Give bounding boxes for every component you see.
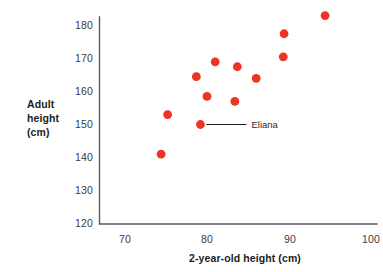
x-tick-label-70: 70 xyxy=(119,233,131,245)
data-point xyxy=(252,74,261,83)
y-axis-title-line-3: (cm) xyxy=(27,126,50,138)
y-tick-label-130: 130 xyxy=(75,184,93,196)
scatter-chart: 180 170 160 150 140 130 120 70 80 90 100… xyxy=(0,0,383,272)
chart-axes xyxy=(100,17,378,224)
data-point xyxy=(230,97,239,106)
data-point xyxy=(157,150,166,159)
annotation-label-eliana: Eliana xyxy=(251,119,278,130)
y-tick-label-150: 150 xyxy=(75,118,93,130)
y-tick-label-120: 120 xyxy=(75,217,93,229)
data-point xyxy=(233,62,242,71)
data-point-group xyxy=(157,11,330,158)
data-point xyxy=(203,92,212,101)
data-point xyxy=(279,52,288,61)
x-tick-label-80: 80 xyxy=(201,233,213,245)
y-tick-label-140: 140 xyxy=(75,151,93,163)
data-point xyxy=(280,29,289,38)
data-point xyxy=(211,57,220,66)
y-tick-label-170: 170 xyxy=(75,52,93,64)
data-point xyxy=(192,72,201,81)
data-point xyxy=(196,120,205,129)
y-tick-label-160: 160 xyxy=(75,85,93,97)
x-tick-label-100: 100 xyxy=(362,233,380,245)
data-point xyxy=(321,11,330,20)
chart-canvas: 180 170 160 150 140 130 120 70 80 90 100… xyxy=(0,0,383,272)
y-axis-title-line-2: height xyxy=(27,112,59,124)
data-point xyxy=(163,110,172,119)
x-tick-label-90: 90 xyxy=(284,233,296,245)
annotation-eliana: Eliana xyxy=(206,119,278,130)
y-axis-title-line-1: Adult xyxy=(27,98,55,110)
x-axis-title: 2-year-old height (cm) xyxy=(189,252,301,264)
y-tick-label-180: 180 xyxy=(75,19,93,31)
